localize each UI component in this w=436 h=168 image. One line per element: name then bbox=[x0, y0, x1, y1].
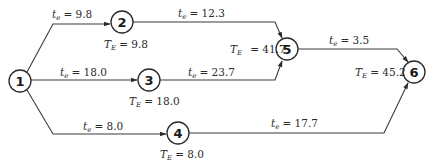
edge-label-3-5: te= 23.7 bbox=[188, 66, 235, 80]
node-label: 3 bbox=[144, 73, 153, 88]
edge-label-2-5: te= 12.3 bbox=[178, 7, 225, 21]
node-2: 2 bbox=[111, 11, 133, 33]
te-label-node-5: TE= 41.7 bbox=[230, 43, 286, 57]
edge-1-2 bbox=[27, 24, 110, 72]
edge-5-6 bbox=[298, 49, 408, 62]
node-6: 6 bbox=[403, 61, 425, 83]
edge-label-4-6: te= 17.7 bbox=[271, 117, 318, 131]
edge-label-5-6: te= 3.5 bbox=[329, 34, 369, 48]
edge-label-1-3: te= 18.0 bbox=[60, 66, 107, 80]
edge-labels: te= 9.8 te= 18.0 te= 8.0 te= 12.3 te= 23… bbox=[52, 7, 369, 134]
edge-2-5 bbox=[133, 22, 282, 38]
edge-label-1-4: te= 8.0 bbox=[83, 120, 123, 134]
pert-network-diagram: te= 9.8 te= 18.0 te= 8.0 te= 12.3 te= 23… bbox=[0, 0, 436, 168]
te-label-node-4: TE= 8.0 bbox=[160, 148, 204, 162]
node-3: 3 bbox=[138, 69, 160, 91]
node-label: 4 bbox=[173, 126, 182, 141]
node-label: 6 bbox=[409, 65, 418, 80]
node-1: 1 bbox=[9, 70, 31, 92]
te-label-node-2: TE= 9.8 bbox=[104, 38, 148, 52]
node-te-labels: TE= 9.8 TE= 18.0 TE= 8.0 TE= 41.7 TE= 45… bbox=[104, 38, 406, 162]
te-label-node-3: TE= 18.0 bbox=[129, 95, 180, 109]
node-label: 2 bbox=[117, 15, 126, 30]
te-label-node-6: TE= 45.2 bbox=[355, 66, 406, 80]
edge-label-1-2: te= 9.8 bbox=[52, 8, 92, 22]
node-4: 4 bbox=[167, 122, 189, 144]
node-label: 1 bbox=[15, 74, 24, 89]
